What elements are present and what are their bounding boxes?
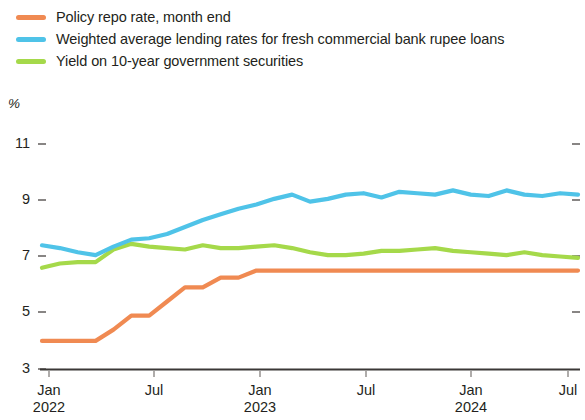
plot-area [0,0,585,420]
x-tick-marks [49,371,568,377]
series-paths [42,190,578,340]
y-tick-marks-left [38,144,46,369]
y-tick-marks-right [572,144,580,312]
series-line-repo [42,271,578,341]
series-line-walr [42,190,578,255]
series-line-gsec [42,244,578,268]
chart-figure: Policy repo rate, month end Weighted ave… [0,0,585,420]
